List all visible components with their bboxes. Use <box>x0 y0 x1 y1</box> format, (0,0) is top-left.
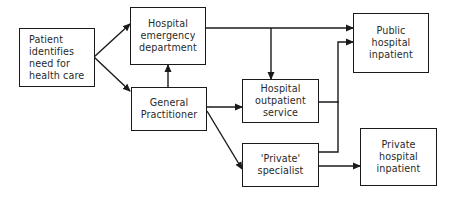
edge-gp-to-specialist <box>207 111 242 169</box>
node-general-practitioner-label: General Practitioner <box>141 97 198 121</box>
edge-patient-to-emergency <box>94 24 130 57</box>
node-patient-label: Patient identifies need for health care <box>29 34 84 82</box>
node-private-hospital-inpatient-label: Private hospital inpatient <box>377 139 421 175</box>
node-private-hospital-inpatient: Private hospital inpatient <box>360 128 437 186</box>
edge-specialist-to-public-inpatient <box>318 101 338 152</box>
node-emergency-department: Hospital emergency department <box>130 7 206 65</box>
node-general-practitioner: General Practitioner <box>131 87 207 131</box>
node-private-specialist: 'Private' specialist <box>242 143 319 187</box>
node-patient: Patient identifies need for health care <box>19 28 95 87</box>
edge-patient-to-gp <box>94 57 130 91</box>
health-care-pathway-diagram: Patient identifies need for health care … <box>0 0 452 199</box>
node-outpatient-service-label: Hospital outpatient service <box>255 83 306 119</box>
edge-outpatient-to-public-inpatient <box>318 42 353 102</box>
node-outpatient-service: Hospital outpatient service <box>242 79 319 123</box>
node-emergency-department-label: Hospital emergency department <box>139 18 197 54</box>
node-public-hospital-inpatient-label: Public hospital inpatient <box>369 25 413 61</box>
node-public-hospital-inpatient: Public hospital inpatient <box>353 13 429 73</box>
node-private-specialist-label: 'Private' specialist <box>258 153 304 177</box>
